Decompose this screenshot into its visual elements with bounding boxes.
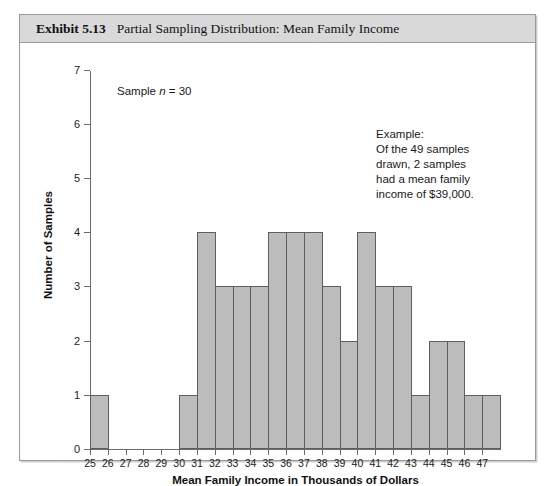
example-annotation-line: Of the 49 samples — [376, 142, 474, 157]
histogram-bar — [304, 232, 323, 449]
x-tick-mark — [161, 449, 162, 455]
x-tick-label: 47 — [470, 457, 494, 469]
y-tick-label: 7 — [58, 64, 80, 76]
example-annotation-line: drawn, 2 samples — [376, 157, 474, 172]
x-tick-mark — [340, 449, 341, 455]
x-tick-mark — [482, 449, 483, 455]
histogram-bar — [322, 286, 341, 449]
x-tick-mark — [429, 449, 430, 455]
x-tick-mark — [393, 449, 394, 455]
histogram-bar — [393, 286, 412, 449]
example-annotation-line: Example: — [376, 127, 474, 142]
y-tick-mark — [84, 286, 90, 287]
histogram-bar — [482, 395, 501, 449]
x-tick-mark — [447, 449, 448, 455]
example-annotation-line: income of $39,000. — [376, 187, 474, 202]
histogram-bar — [215, 286, 234, 449]
y-axis-line — [90, 71, 91, 450]
example-annotation-line: had a mean family — [376, 172, 474, 187]
x-tick-mark — [215, 449, 216, 455]
histogram-bar — [447, 341, 466, 449]
histogram-bar — [340, 341, 359, 449]
y-tick-mark — [84, 232, 90, 233]
histogram-bar — [375, 286, 394, 449]
x-tick-mark — [268, 449, 269, 455]
histogram-bar — [250, 286, 269, 449]
x-tick-mark — [233, 449, 234, 455]
chart-plot-region: 01234567 2526272829303132333435363738394… — [20, 43, 537, 461]
x-tick-mark — [197, 449, 198, 455]
sample-note-prefix: Sample — [117, 85, 159, 97]
histogram-bar — [464, 395, 483, 449]
sample-size-annotation: Sample n = 30 — [117, 85, 192, 97]
histogram-bar — [197, 232, 216, 449]
exhibit-figure-frame: Exhibit 5.13 Partial Sampling Distributi… — [19, 14, 536, 461]
exhibit-banner: Exhibit 5.13 Partial Sampling Distributi… — [20, 15, 535, 43]
histogram-bar — [286, 232, 305, 449]
x-tick-mark — [108, 449, 109, 455]
y-axis-title: Number of Samples — [42, 165, 54, 325]
x-tick-mark — [126, 449, 127, 455]
x-tick-mark — [464, 449, 465, 455]
y-tick-label: 5 — [58, 172, 80, 184]
y-tick-mark — [84, 70, 90, 71]
x-tick-mark — [411, 449, 412, 455]
x-tick-mark — [322, 449, 323, 455]
x-tick-mark — [90, 449, 91, 455]
y-tick-label: 6 — [58, 118, 80, 130]
y-tick-label: 2 — [58, 335, 80, 347]
x-tick-mark — [357, 449, 358, 455]
histogram-bar — [429, 341, 448, 449]
exhibit-number: Exhibit 5.13 — [36, 21, 106, 37]
histogram-bar — [411, 395, 430, 449]
y-tick-mark — [84, 124, 90, 125]
y-tick-mark — [84, 178, 90, 179]
x-tick-mark — [250, 449, 251, 455]
exhibit-title: Partial Sampling Distribution: Mean Fami… — [117, 21, 399, 37]
x-tick-mark — [375, 449, 376, 455]
y-tick-label: 0 — [58, 443, 80, 455]
y-tick-label: 1 — [58, 389, 80, 401]
histogram-bar — [357, 232, 376, 449]
x-tick-mark — [179, 449, 180, 455]
x-tick-mark — [286, 449, 287, 455]
x-tick-mark — [143, 449, 144, 455]
histogram-bar — [179, 395, 198, 449]
x-tick-mark — [304, 449, 305, 455]
x-axis-title: Mean Family Income in Thousands of Dolla… — [90, 474, 501, 486]
histogram-bar — [268, 232, 287, 449]
histogram-bar — [90, 395, 109, 449]
y-tick-label: 3 — [58, 280, 80, 292]
x-axis-line — [90, 449, 501, 450]
example-annotation: Example:Of the 49 samplesdrawn, 2 sample… — [376, 127, 474, 202]
sample-note-suffix: = 30 — [166, 85, 192, 97]
y-tick-label: 4 — [58, 226, 80, 238]
y-tick-mark — [84, 341, 90, 342]
histogram-bar — [233, 286, 252, 449]
